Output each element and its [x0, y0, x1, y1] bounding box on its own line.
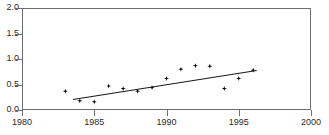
data-point-marker	[193, 63, 198, 68]
data-point-marker	[106, 84, 111, 89]
data-point-marker	[236, 76, 241, 81]
data-point-marker	[178, 67, 183, 72]
data-point-marker	[207, 64, 212, 69]
data-point-marker	[164, 76, 169, 81]
chart-container: 0.0 0.5 1.0 1.5 2.0 1980 1985 1990 1995 …	[0, 0, 329, 135]
data-point-marker	[92, 99, 97, 104]
data-point-marker	[222, 86, 227, 91]
data-point-marker	[63, 89, 68, 94]
trend-line	[72, 70, 256, 100]
data-point-layer	[0, 0, 329, 135]
